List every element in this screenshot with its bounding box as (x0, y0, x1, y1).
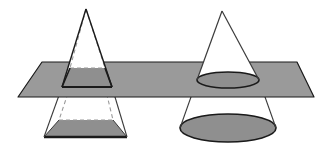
figure-root (0, 0, 316, 155)
cutting-plane (18, 62, 314, 97)
geometry-diagram (0, 0, 316, 155)
